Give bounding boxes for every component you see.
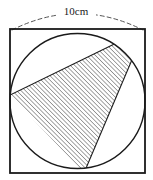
hatched-region-group — [10, 29, 145, 173]
geometry-figure: 10cm — [0, 0, 153, 180]
geometry-diagram: 10cm — [0, 0, 153, 180]
hatched-curved-triangle — [10, 29, 145, 173]
dimension-label: 10cm — [64, 5, 89, 17]
